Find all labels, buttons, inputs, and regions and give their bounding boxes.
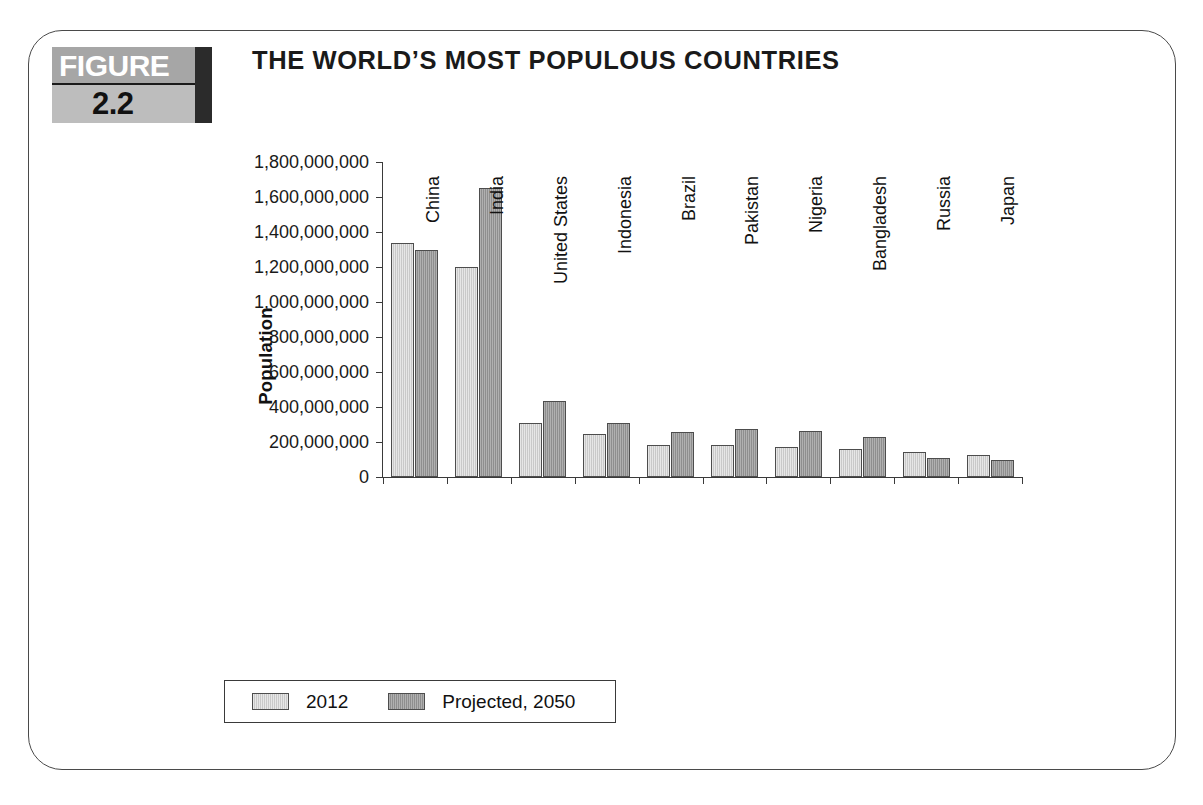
bar-2012[interactable] (903, 452, 926, 477)
bar-projected-2050[interactable] (927, 458, 950, 477)
legend-entry-2012: 2012 (252, 681, 348, 722)
bar-projected-2050[interactable] (479, 188, 502, 477)
x-axis-category-label: Russia (935, 176, 953, 231)
x-axis-tick-mark (383, 477, 384, 484)
y-axis-tick-mark (376, 232, 383, 233)
bar-projected-2050[interactable] (543, 401, 566, 477)
y-axis-tick-label: 800,000,000 (269, 328, 369, 346)
figure-page: FIGURE 2.2 THE WORLD’S MOST POPULOUS COU… (0, 0, 1203, 805)
y-axis-tick-mark (376, 442, 383, 443)
figure-badge-accent-bar (195, 47, 212, 123)
bar-projected-2050[interactable] (415, 250, 438, 478)
bar-projected-2050[interactable] (991, 460, 1014, 477)
legend-swatch-projected-2050 (388, 693, 425, 710)
y-axis-tick-mark (376, 337, 383, 338)
figure-badge-number: 2.2 (92, 85, 134, 123)
legend-label-projected-2050: Projected, 2050 (442, 691, 575, 713)
x-axis-tick-mark (766, 477, 767, 484)
bar-2012[interactable] (711, 445, 734, 477)
x-axis-category-label: Brazil (680, 176, 698, 221)
bar-projected-2050[interactable] (799, 431, 822, 477)
y-axis-tick-mark (376, 197, 383, 198)
x-axis-category-label: China (424, 176, 442, 223)
bar-chart: Population 0200,000,000400,000,000600,00… (52, 140, 1152, 740)
y-axis-tick-mark (376, 372, 383, 373)
bar-2012[interactable] (967, 455, 990, 477)
x-axis-tick-mark (639, 477, 640, 484)
bar-2012[interactable] (647, 445, 670, 477)
y-axis-tick-label: 0 (359, 468, 369, 486)
bar-2012[interactable] (519, 423, 542, 477)
y-axis-tick-label: 1,600,000,000 (254, 188, 369, 206)
x-axis-category-label: Pakistan (743, 176, 761, 245)
x-axis-category-label: United States (552, 176, 570, 284)
y-axis-tick-label: 200,000,000 (269, 433, 369, 451)
x-axis-category-label: Indonesia (616, 176, 634, 254)
y-axis-tick-mark (376, 407, 383, 408)
legend-swatch-2012 (252, 693, 289, 710)
bar-projected-2050[interactable] (607, 423, 630, 477)
bar-projected-2050[interactable] (735, 429, 758, 477)
y-axis-tick-mark (376, 302, 383, 303)
y-axis-tick-label: 600,000,000 (269, 363, 369, 381)
y-axis-tick-label: 1,400,000,000 (254, 223, 369, 241)
figure-badge: FIGURE 2.2 (52, 47, 212, 123)
x-axis-tick-mark (830, 477, 831, 484)
x-axis-tick-mark (511, 477, 512, 484)
x-axis-tick-mark (447, 477, 448, 484)
x-axis-category-label: India (488, 176, 506, 215)
figure-badge-body: FIGURE 2.2 (52, 47, 195, 123)
chart-legend: 2012 Projected, 2050 (224, 680, 616, 723)
legend-label-2012: 2012 (306, 691, 348, 713)
legend-entry-projected-2050: Projected, 2050 (388, 681, 575, 722)
x-axis-category-label: Nigeria (807, 176, 825, 233)
y-axis-tick-mark (376, 477, 383, 478)
bar-projected-2050[interactable] (671, 432, 694, 477)
bar-2012[interactable] (775, 447, 798, 477)
x-axis-tick-mark (958, 477, 959, 484)
y-axis-tick-label: 1,000,000,000 (254, 293, 369, 311)
bar-2012[interactable] (839, 449, 862, 477)
figure-badge-top: FIGURE (52, 47, 195, 85)
y-axis-tick-mark (376, 162, 383, 163)
y-axis-tick-label: 1,800,000,000 (254, 153, 369, 171)
figure-badge-word: FIGURE (59, 49, 169, 83)
y-axis-tick-mark (376, 267, 383, 268)
x-axis-category-label: Bangladesh (871, 176, 889, 271)
x-axis-tick-mark (894, 477, 895, 484)
bar-2012[interactable] (583, 434, 606, 477)
figure-title: THE WORLD’S MOST POPULOUS COUNTRIES (252, 46, 840, 75)
plot-area: ChinaIndiaUnited StatesIndonesiaBrazilPa… (382, 162, 1022, 478)
bar-projected-2050[interactable] (863, 437, 886, 477)
bar-2012[interactable] (455, 267, 478, 477)
bar-2012[interactable] (391, 243, 414, 478)
figure-badge-bottom: 2.2 (52, 85, 195, 123)
y-axis-tick-label: 400,000,000 (269, 398, 369, 416)
y-axis-tick-label: 1,200,000,000 (254, 258, 369, 276)
x-axis-tick-mark (1022, 477, 1023, 484)
x-axis-tick-mark (575, 477, 576, 484)
x-axis-category-label: Japan (999, 176, 1017, 225)
x-axis-tick-mark (703, 477, 704, 484)
